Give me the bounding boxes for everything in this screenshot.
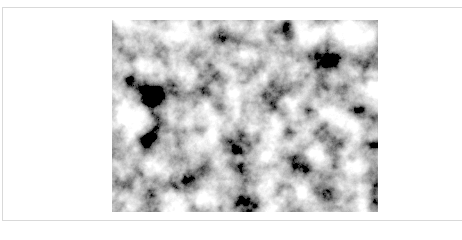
noise-texture-graphic — [112, 20, 378, 212]
noise-image — [112, 20, 378, 212]
